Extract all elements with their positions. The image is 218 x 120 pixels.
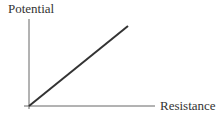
x-axis-label: Resistance bbox=[160, 98, 216, 114]
y-axis-label: Potential bbox=[8, 1, 54, 17]
potential-resistance-diagram: Potential Resistance bbox=[0, 0, 218, 120]
data-line bbox=[29, 26, 128, 106]
